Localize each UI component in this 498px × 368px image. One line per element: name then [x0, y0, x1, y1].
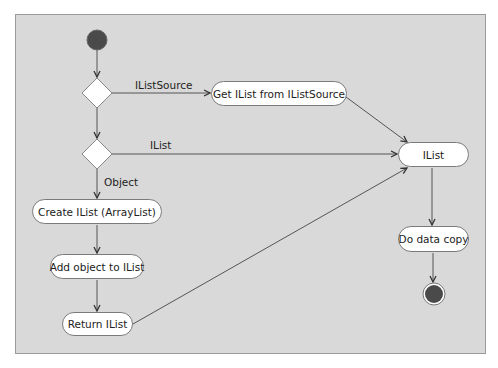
node-return-ilist: Return IList [62, 312, 133, 336]
edge-label-object: Object [104, 176, 138, 188]
start-node-icon [87, 30, 107, 50]
end-node-inner-icon [425, 285, 443, 303]
decision-diamond-2-icon [82, 139, 112, 169]
node-data-copy: Do data copy [398, 226, 469, 252]
node-add-object: Add object to IList [50, 254, 144, 279]
edge-label-ilist: IList [150, 139, 171, 151]
edge-label-ilistsource: IListSource [135, 79, 193, 91]
node-get-ilist: Get IList from IListSource [211, 81, 347, 106]
decision-diamond-1-icon [82, 78, 112, 108]
node-create-ilist: Create IList (ArrayList) [32, 199, 162, 224]
node-ilist: IList [398, 142, 469, 167]
